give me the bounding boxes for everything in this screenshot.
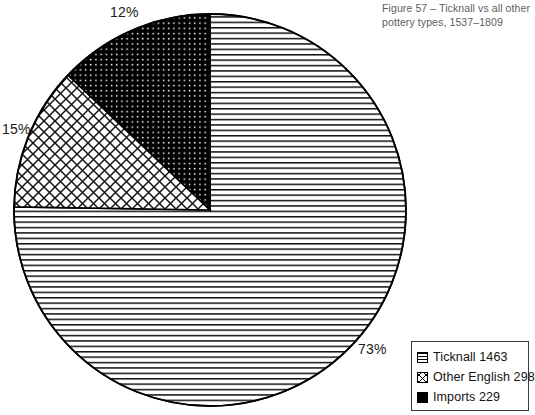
legend-item-imports: Imports 229 xyxy=(417,387,524,407)
legend-swatch-cross-hatch-icon xyxy=(417,372,428,383)
pie-label-ticknall-percent: 73% xyxy=(358,341,387,357)
legend-label-ticknall: Ticknall 1463 xyxy=(433,350,508,364)
legend-swatch-horizontal-lines-icon xyxy=(417,352,428,363)
chart-legend: Ticknall 1463 Other English 298 Imports … xyxy=(411,341,529,411)
legend-swatch-black-dots-icon xyxy=(417,392,428,403)
legend-label-other-english: Other English 298 xyxy=(433,370,535,384)
pie-label-imports-percent: 12% xyxy=(110,4,139,20)
pie-label-other-english-percent: 15% xyxy=(2,121,31,137)
legend-item-other-english: Other English 298 xyxy=(417,367,524,387)
legend-item-ticknall: Ticknall 1463 xyxy=(417,347,524,367)
legend-label-imports: Imports 229 xyxy=(433,390,500,404)
